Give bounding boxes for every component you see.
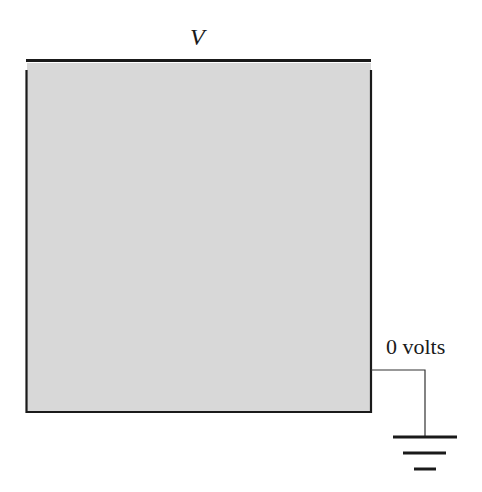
ground-wire [371,370,425,437]
ground-potential-label: 0 volts [386,334,445,360]
potential-region [27,63,371,412]
ground-icon [393,437,457,469]
top-plate-potential-label: V [190,24,205,51]
diagram-canvas [0,0,482,492]
